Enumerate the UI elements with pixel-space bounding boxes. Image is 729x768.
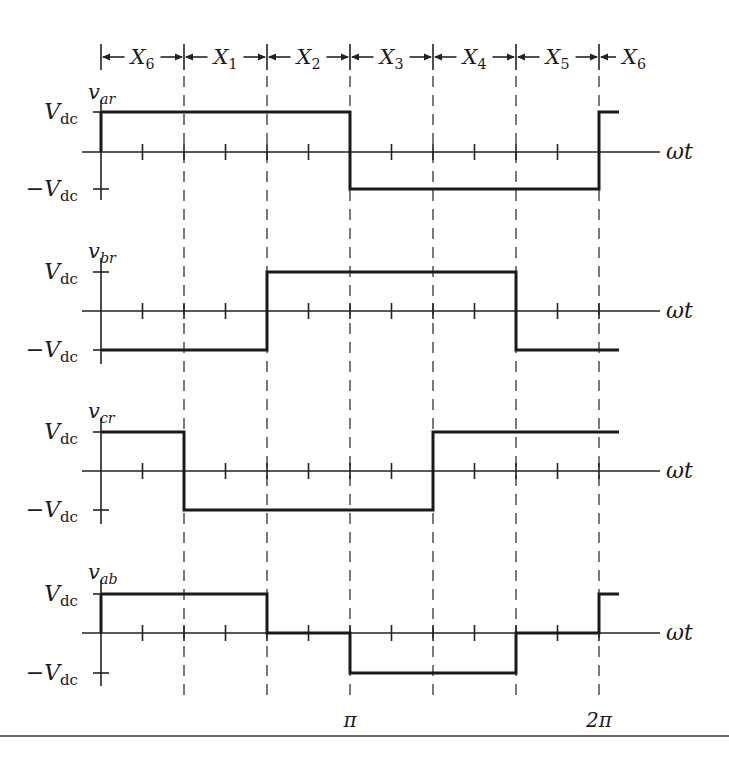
signal-label-v_ar: var	[88, 80, 116, 107]
interval-header: X6X1X2X3X4X5X6	[101, 44, 646, 72]
vdc-label: Vdc	[44, 99, 78, 128]
interval-label: X1	[211, 45, 237, 72]
arrowhead-left-icon	[268, 54, 276, 61]
arrowhead-right-icon	[507, 54, 515, 61]
signal-label-v_ab: vab	[88, 560, 118, 587]
arrowhead-right-icon	[341, 54, 349, 61]
arrowhead-right-icon	[175, 54, 183, 61]
neg-vdc-label: −Vdc	[26, 337, 78, 366]
neg-vdc-label: −Vdc	[26, 176, 78, 205]
waveform-v_ar	[101, 112, 619, 189]
vdc-label: Vdc	[44, 259, 78, 288]
time-axis-label: ωt	[666, 298, 693, 323]
vdc-label: Vdc	[44, 419, 78, 448]
time-axis-label: ωt	[666, 458, 693, 483]
x-tick-labels: π2π	[342, 708, 612, 732]
arrowhead-left-icon	[600, 54, 608, 61]
arrowhead-left-icon	[517, 54, 525, 61]
arrowhead-left-icon	[102, 54, 110, 61]
x-tick-label-pi: π	[342, 708, 357, 732]
arrowhead-left-icon	[434, 54, 442, 61]
interval-label: X4	[460, 45, 486, 72]
interval-dashed-lines	[184, 76, 599, 702]
interval-label: X3	[377, 45, 403, 72]
waveform-diagram: X6X1X2X3X4X5X6 ωtVdc−VdcvarωtVdc−Vdcvbrω…	[0, 0, 729, 768]
arrowhead-right-icon	[424, 54, 432, 61]
plot-v_ab: ωtVdc−Vdcvab	[26, 560, 693, 689]
signal-label-v_br: vbr	[88, 239, 117, 266]
arrowhead-left-icon	[185, 54, 193, 61]
neg-vdc-label: −Vdc	[26, 660, 78, 689]
plot-v_cr: ωtVdc−Vdcvcr	[26, 399, 693, 526]
arrowhead-left-icon	[351, 54, 359, 61]
interval-label: X2	[294, 45, 320, 72]
vdc-label: Vdc	[44, 581, 78, 610]
plot-v_br: ωtVdc−Vdcvbr	[26, 239, 693, 366]
time-axis-label: ωt	[666, 139, 693, 164]
time-axis-label: ωt	[666, 620, 693, 645]
interval-label: X5	[543, 45, 569, 72]
arrowhead-right-icon	[590, 54, 598, 61]
plot-v_ar: ωtVdc−Vdcvar	[26, 80, 693, 205]
waveform-plots: ωtVdc−VdcvarωtVdc−VdcvbrωtVdc−VdcvcrωtVd…	[26, 80, 693, 689]
neg-vdc-label: −Vdc	[26, 497, 78, 526]
interval-label: X6	[620, 45, 646, 72]
signal-label-v_cr: vcr	[88, 399, 116, 426]
x-tick-label-2pi: 2π	[585, 708, 613, 732]
interval-label: X6	[128, 45, 154, 72]
arrowhead-right-icon	[258, 54, 266, 61]
